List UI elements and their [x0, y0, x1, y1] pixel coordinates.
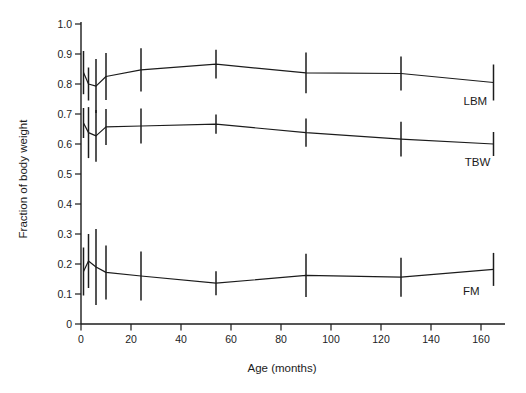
y-tick-label: 1.0	[57, 18, 72, 30]
y-tick-label: 0.1	[57, 288, 72, 300]
body-composition-figure: 00.10.20.30.40.50.60.70.80.91.0020406080…	[0, 0, 526, 393]
y-tick-label: 0.5	[57, 168, 72, 180]
y-tick-label: 0.3	[57, 228, 72, 240]
x-axis-title: Age (months)	[247, 362, 316, 374]
x-tick-label: 120	[372, 333, 390, 345]
y-tick-label: 0.4	[57, 198, 72, 210]
y-tick-label: 0	[66, 318, 72, 330]
series-label-fm: FM	[463, 285, 480, 297]
y-tick-label: 0.6	[57, 138, 72, 150]
series-line-fm	[84, 261, 494, 283]
series-line-lbm	[84, 64, 494, 86]
x-tick-label: 40	[175, 333, 187, 345]
y-tick-label: 0.7	[57, 108, 72, 120]
body-composition-chart: 00.10.20.30.40.50.60.70.80.91.0020406080…	[0, 0, 526, 393]
y-tick-label: 0.9	[57, 48, 72, 60]
series-line-tbw	[84, 123, 494, 144]
y-tick-label: 0.2	[57, 258, 72, 270]
x-tick-label: 160	[472, 333, 490, 345]
x-tick-label: 60	[225, 333, 237, 345]
x-tick-label: 140	[422, 333, 440, 345]
x-tick-label: 0	[78, 333, 84, 345]
x-tick-label: 20	[125, 333, 137, 345]
y-axis-title: Fraction of body weight	[17, 119, 29, 239]
x-tick-label: 80	[275, 333, 287, 345]
x-tick-label: 100	[322, 333, 340, 345]
series-label-lbm: LBM	[464, 95, 488, 107]
series-label-tbw: TBW	[465, 156, 491, 168]
y-tick-label: 0.8	[57, 78, 72, 90]
